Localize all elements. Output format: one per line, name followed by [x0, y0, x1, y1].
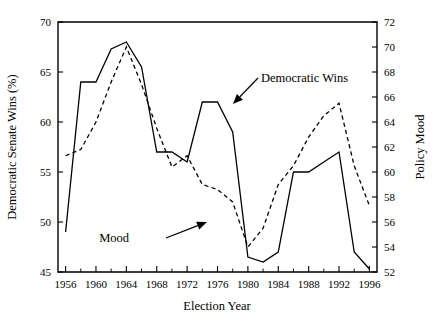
- x-tick-label: 1976: [207, 278, 230, 290]
- left-axis: 455055606570: [40, 16, 63, 278]
- y2-tick-label: 72: [384, 16, 395, 28]
- x-tick-label: 1960: [85, 278, 108, 290]
- x-tick-label: 1996: [358, 278, 381, 290]
- y-tick-label: 50: [40, 216, 52, 228]
- y-tick-label: 65: [40, 66, 52, 78]
- y-axis-title: Democratic Senate Wins (%): [5, 74, 19, 219]
- y2-axis-title: Policy Mood: [413, 114, 427, 180]
- annotation-arrow-0: [240, 78, 258, 97]
- x-tick-label: 1956: [55, 278, 78, 290]
- x-tick-label: 1964: [115, 278, 138, 290]
- chart-figure: 455055606570 5254565860626466687072 1956…: [0, 0, 434, 323]
- x-tick-label: 1972: [176, 278, 198, 290]
- y2-tick-label: 60: [384, 166, 396, 178]
- annotation-label-1: Mood: [99, 231, 130, 245]
- y-tick-label: 60: [40, 116, 52, 128]
- x-tick-label: 1988: [298, 278, 321, 290]
- y2-tick-label: 62: [384, 141, 395, 153]
- y2-tick-label: 64: [384, 116, 396, 128]
- bottom-axis: 1956196019641968197219761980198419881992…: [55, 266, 381, 290]
- y2-tick-label: 56: [384, 216, 396, 228]
- annotation-arrowhead-1: [196, 222, 207, 230]
- y2-tick-label: 52: [384, 266, 395, 278]
- y-tick-label: 55: [40, 166, 52, 178]
- annotation-layer: Democratic WinsMood: [99, 71, 348, 245]
- x-axis-title: Election Year: [183, 299, 251, 313]
- x-tick-label: 1968: [146, 278, 169, 290]
- annotation-label-0: Democratic Wins: [261, 71, 348, 85]
- y2-tick-label: 68: [384, 66, 396, 78]
- y2-tick-label: 54: [384, 241, 396, 253]
- y2-tick-label: 70: [384, 41, 396, 53]
- y2-tick-label: 58: [384, 191, 396, 203]
- x-tick-label: 1984: [267, 278, 290, 290]
- x-tick-label: 1992: [328, 278, 350, 290]
- y2-tick-label: 66: [384, 91, 396, 103]
- y-tick-label: 70: [40, 16, 52, 28]
- senate-wins-policy-mood-chart: 455055606570 5254565860626466687072 1956…: [0, 0, 434, 323]
- annotation-arrow-1: [166, 226, 198, 238]
- y-tick-label: 45: [40, 266, 52, 278]
- x-tick-label: 1980: [237, 278, 260, 290]
- right-axis: 5254565860626466687072: [372, 16, 396, 278]
